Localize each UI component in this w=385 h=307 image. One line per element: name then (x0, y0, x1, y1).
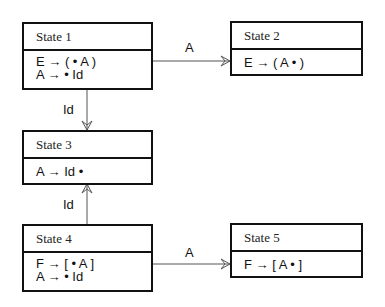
state-4-box: State 4 F → [ • A ] A → • Id (22, 224, 153, 292)
edge-s4-s3 (82, 184, 92, 224)
state-item: F → [ A • ] (244, 258, 361, 271)
state-title: State 1 (24, 24, 151, 51)
state-title: State 2 (232, 23, 361, 50)
state-items: E → ( A • ) (232, 50, 361, 69)
state-item: A → • Id (36, 68, 151, 81)
state-title: State 4 (24, 226, 151, 253)
state-2-box: State 2 E → ( A • ) (230, 21, 363, 76)
state-item: A → • Id (36, 270, 151, 283)
edge-s4-s5 (152, 259, 230, 269)
state-3-box: State 3 A → Id • (22, 130, 153, 185)
edge-s1-s3 (82, 89, 92, 130)
edge-label-s4-s3: Id (63, 197, 74, 212)
edge-s1-s2 (152, 56, 230, 66)
edge-label-s1-s3: Id (63, 102, 74, 117)
state-items: A → Id • (24, 159, 151, 178)
edge-label-s4-s5: A (185, 245, 194, 260)
state-items: F → [ A • ] (232, 252, 361, 271)
state-5-box: State 5 F → [ A • ] (230, 223, 363, 278)
state-item: E → ( A • ) (244, 56, 361, 69)
state-item: A → Id • (36, 165, 151, 178)
state-items: E → ( • A ) A → • Id (24, 51, 151, 81)
state-title: State 5 (232, 225, 361, 252)
state-1-box: State 1 E → ( • A ) A → • Id (22, 22, 153, 90)
state-title: State 3 (24, 132, 151, 159)
edge-label-s1-s2: A (185, 40, 194, 55)
state-items: F → [ • A ] A → • Id (24, 253, 151, 283)
